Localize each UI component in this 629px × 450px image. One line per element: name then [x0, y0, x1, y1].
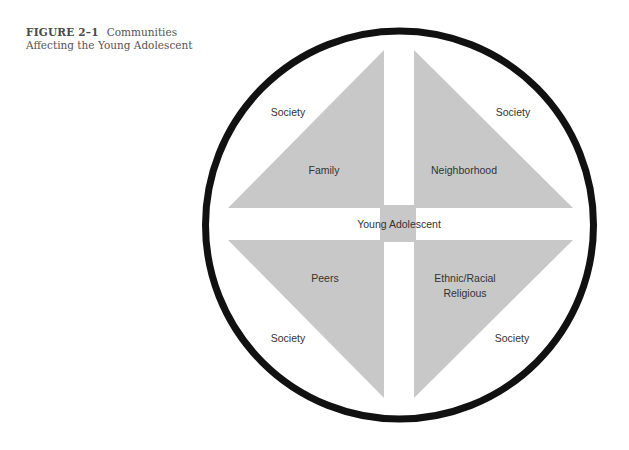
peers-triangle — [228, 240, 384, 398]
peers-label: Peers — [311, 272, 338, 284]
family-label: Family — [309, 164, 341, 176]
family-triangle — [228, 50, 384, 208]
society-label-top-left: Society — [271, 106, 306, 118]
society-label-bottom-left: Society — [271, 332, 306, 344]
ethnic-racial-religious-triangle — [414, 240, 573, 398]
society-label-top-right: Society — [496, 106, 531, 118]
society-label-bottom-right: Society — [495, 332, 530, 344]
young-adolescent-label: Young Adolescent — [357, 218, 441, 230]
ethnic-racial-label: Ethnic/Racial — [434, 272, 495, 284]
neighborhood-label: Neighborhood — [431, 164, 497, 176]
neighborhood-triangle — [414, 50, 573, 208]
religious-label: Religious — [443, 287, 486, 299]
communities-diagram: Society Family Society Neighborhood Youn… — [0, 0, 629, 450]
